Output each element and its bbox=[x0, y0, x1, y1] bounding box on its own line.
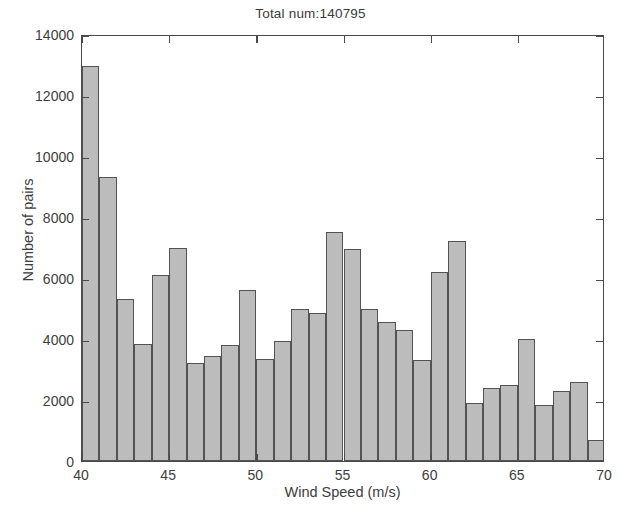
y-tick-label: 14000 bbox=[0, 27, 74, 43]
x-tick-label: 50 bbox=[248, 467, 264, 483]
y-tick-label: 4000 bbox=[0, 332, 74, 348]
x-tick-mark bbox=[518, 454, 519, 461]
histogram-bar bbox=[535, 405, 552, 461]
y-tick-mark bbox=[82, 36, 89, 37]
x-tick-label: 60 bbox=[422, 467, 438, 483]
x-tick-mark bbox=[256, 454, 257, 461]
histogram-bar bbox=[500, 385, 517, 461]
histogram-bar bbox=[378, 322, 395, 461]
y-tick-mark bbox=[82, 158, 89, 159]
histogram-bar bbox=[239, 290, 256, 461]
histogram-bar bbox=[256, 359, 273, 461]
histogram-bar bbox=[431, 272, 448, 461]
histogram-bar bbox=[396, 330, 413, 461]
histogram-bar bbox=[518, 339, 535, 461]
x-tick-mark-top bbox=[256, 36, 257, 43]
histogram-bar bbox=[588, 440, 604, 461]
y-tick-label: 0 bbox=[0, 454, 74, 470]
histogram-bar bbox=[169, 248, 186, 462]
histogram-bar bbox=[221, 345, 238, 461]
x-tick-mark bbox=[431, 454, 432, 461]
histogram-bar bbox=[309, 313, 326, 461]
y-tick-mark bbox=[82, 341, 89, 342]
x-tick-label: 40 bbox=[73, 467, 89, 483]
histogram-bar bbox=[413, 360, 430, 461]
histogram-bar bbox=[344, 249, 361, 461]
histogram-bar bbox=[326, 232, 343, 461]
histogram-bar bbox=[570, 382, 587, 461]
y-tick-mark bbox=[82, 402, 89, 403]
y-tick-label: 2000 bbox=[0, 393, 74, 409]
histogram-bar bbox=[466, 403, 483, 461]
y-axis-title: Number of pairs bbox=[20, 130, 36, 330]
y-tick-label: 10000 bbox=[0, 149, 74, 165]
x-tick-mark bbox=[344, 454, 345, 461]
histogram-bar bbox=[134, 344, 151, 461]
y-tick-mark-right bbox=[596, 97, 603, 98]
y-tick-mark-right bbox=[596, 158, 603, 159]
y-tick-mark bbox=[82, 280, 89, 281]
x-tick-mark bbox=[169, 454, 170, 461]
histogram-bar bbox=[99, 177, 116, 461]
plot-area bbox=[81, 35, 604, 462]
histogram-bar bbox=[152, 275, 169, 461]
histogram-bar bbox=[117, 299, 134, 461]
y-tick-mark bbox=[82, 97, 89, 98]
y-tick-mark-right bbox=[596, 280, 603, 281]
x-tick-mark-top bbox=[344, 36, 345, 43]
x-tick-mark bbox=[82, 454, 83, 461]
histogram-bar bbox=[274, 341, 291, 461]
y-tick-label: 6000 bbox=[0, 271, 74, 287]
x-tick-label: 55 bbox=[335, 467, 351, 483]
histogram-bar bbox=[187, 363, 204, 461]
bar-series bbox=[82, 36, 603, 461]
y-tick-mark-right bbox=[596, 219, 603, 220]
x-tick-mark-top bbox=[518, 36, 519, 43]
histogram-bar bbox=[448, 241, 465, 461]
x-tick-mark-top bbox=[431, 36, 432, 43]
x-tick-label: 70 bbox=[596, 467, 612, 483]
x-tick-label: 65 bbox=[509, 467, 525, 483]
histogram-bar bbox=[553, 391, 570, 461]
y-tick-mark bbox=[82, 219, 89, 220]
histogram-bar bbox=[361, 309, 378, 462]
chart-title: Total num:140795 bbox=[0, 6, 621, 21]
histogram-figure: Total num:140795 40455055606570 02000400… bbox=[0, 0, 621, 506]
y-tick-mark-right bbox=[596, 36, 603, 37]
histogram-bar bbox=[483, 388, 500, 461]
y-tick-label: 8000 bbox=[0, 210, 74, 226]
histogram-bar bbox=[204, 356, 221, 461]
x-tick-mark-top bbox=[169, 36, 170, 43]
x-tick-label: 45 bbox=[160, 467, 176, 483]
y-tick-mark-right bbox=[596, 402, 603, 403]
x-axis-title: Wind Speed (m/s) bbox=[81, 484, 604, 500]
histogram-bar bbox=[291, 309, 308, 462]
y-tick-label: 12000 bbox=[0, 88, 74, 104]
y-tick-mark-right bbox=[596, 341, 603, 342]
